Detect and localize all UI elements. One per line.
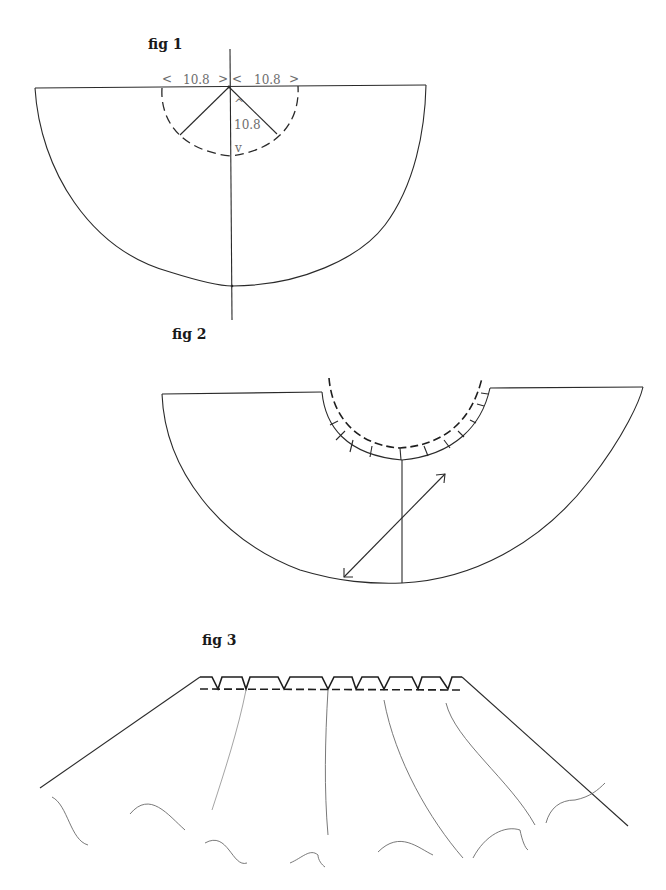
fig3-left-side <box>40 677 200 788</box>
fig2-top-right-edge <box>490 387 643 388</box>
fig1-diagram: < 10.8 > < 10.8 > ^ 10.8 v <box>35 49 426 320</box>
fig3-right-side <box>462 677 628 826</box>
fig1-dim-radius: 10.8 <box>234 118 261 132</box>
fig3-pleats <box>200 677 462 689</box>
fig2-notches <box>330 393 488 460</box>
fig1-dim-down: v <box>234 141 242 155</box>
fig2-top-left-edge <box>162 392 322 394</box>
fig1-dim-left: 10.8 <box>183 73 210 87</box>
fig1-dim-right-open: < <box>232 72 242 86</box>
fig3-fold-2 <box>325 690 328 835</box>
fig1-dim-left-open: < <box>162 72 172 86</box>
fig2-seam-allowance <box>329 378 482 448</box>
fig3-fold-3 <box>384 700 463 858</box>
fig1-dim-left-close: > <box>218 72 228 86</box>
fig1-dim-up: ^ <box>234 97 244 111</box>
fig3-fold-4 <box>446 703 535 825</box>
fig3-hem-waves <box>52 783 605 867</box>
fig2-diagram <box>162 378 643 583</box>
fig1-dim-right: 10.8 <box>254 73 281 87</box>
fig3-diagram <box>40 677 628 867</box>
fig2-grainline <box>344 474 445 577</box>
fig1-radius-left <box>180 87 229 135</box>
fig1-dim-right-close: > <box>289 72 299 86</box>
fig3-stitch-line <box>200 689 462 690</box>
fig3-fold-1 <box>212 690 246 810</box>
fig1-center-dot <box>228 86 231 89</box>
fig1-hem-dot <box>231 285 234 288</box>
